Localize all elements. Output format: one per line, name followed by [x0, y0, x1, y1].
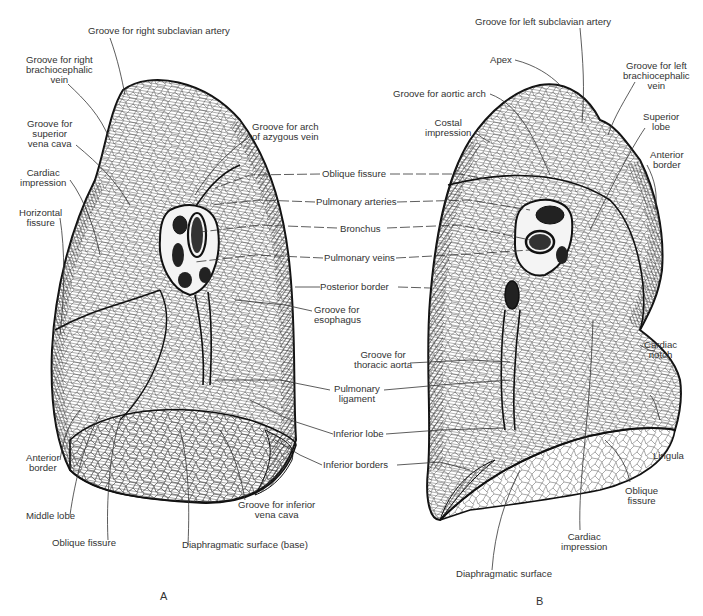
label-groove-arch-azygous-vein: Groove for arch of azygous vein	[252, 122, 319, 142]
label-oblique-fissure-a: Oblique fissure	[52, 538, 116, 548]
left-lung-drawing	[427, 84, 681, 520]
label-inferior-borders: Inferior borders	[323, 460, 388, 470]
label-groove-right-brachiocephalic-vein: Groove for right brachiocephalic vein	[26, 55, 93, 85]
label-groove-aortic-arch: Groove for aortic arch	[393, 89, 486, 99]
label-oblique-fissure-b: Oblique fissure	[625, 486, 658, 506]
label-bronchus: Bronchus	[340, 224, 381, 234]
label-cardiac-impression-a: Cardiac impression	[20, 168, 66, 188]
label-middle-lobe: Middle lobe	[26, 511, 75, 521]
label-groove-thoracic-aorta: Groove for thoracic aorta	[354, 350, 412, 370]
label-inferior-lobe: Inferior lobe	[333, 429, 384, 439]
label-diaphragmatic-surface-base: Diaphragmatic surface (base)	[182, 540, 308, 550]
label-costal-impression: Costal impression	[425, 118, 471, 138]
label-groove-esophagus: Groove for esophagus	[314, 305, 361, 325]
label-diaphragmatic-surface: Diaphragmatic surface	[456, 569, 552, 579]
panel-label-b: B	[536, 595, 543, 607]
label-groove-right-subclavian-artery: Groove for right subclavian artery	[88, 26, 230, 36]
label-groove-left-brachiocephalic-vein: Groove for left brachiocephalic vein	[623, 61, 690, 91]
label-cardiac-notch: Cardiac notch	[644, 340, 677, 360]
label-oblique-fissure: Oblique fissure	[322, 169, 386, 179]
label-pulmonary-veins: Pulmonary veins	[324, 253, 395, 263]
label-horizontal-fissure: Horizontal fissure	[19, 208, 62, 228]
label-groove-inferior-vena-cava: Groove for inferior vena cava	[238, 500, 315, 520]
label-pulmonary-arteries: Pulmonary arteries	[316, 197, 397, 207]
label-apex: Apex	[490, 55, 512, 65]
label-anterior-border-a: Anterior border	[26, 453, 60, 473]
label-groove-left-subclavian-artery: Groove for left subclavian artery	[475, 17, 611, 27]
label-lingula: Lingula	[653, 451, 684, 461]
label-cardiac-impression-b: Cardiac impression	[561, 532, 607, 552]
label-anterior-border-b: Anterior border	[650, 150, 684, 170]
lung-medial-views-figure: Groove for right subclavian artery Groov…	[0, 0, 703, 616]
label-superior-lobe: Superior lobe	[643, 112, 679, 132]
panel-label-a: A	[160, 590, 167, 602]
label-posterior-border: Posterior border	[320, 282, 389, 292]
label-pulmonary-ligament: Pulmonary ligament	[334, 384, 380, 404]
label-groove-superior-vena-cava: Groove for superior vena cava	[27, 119, 72, 149]
